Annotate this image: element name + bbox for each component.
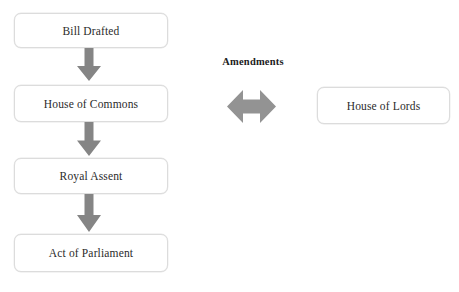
arrow-down-icon-bill-to-commons: [76, 48, 102, 81]
node-act-of-parliament[interactable]: Act of Parliament: [14, 234, 168, 272]
node-house-of-lords-label: House of Lords: [347, 100, 421, 112]
node-house-of-commons-label: House of Commons: [44, 98, 138, 110]
node-house-of-commons[interactable]: House of Commons: [14, 85, 168, 122]
cut-off-caption-strip: [0, 0, 459, 3]
arrow-down-icon-royal-assent-to-act: [76, 194, 102, 232]
node-act-of-parliament-label: Act of Parliament: [49, 247, 133, 259]
amendments-label: Amendments: [203, 56, 303, 67]
arrow-down-icon-commons-to-royal-assent: [76, 122, 102, 156]
arrow-left-right-icon-amendments: [227, 88, 276, 125]
node-house-of-lords[interactable]: House of Lords: [317, 87, 450, 124]
legislative-process-diagram: Bill Drafted House of Commons Royal Asse…: [0, 0, 459, 292]
node-bill-drafted-label: Bill Drafted: [62, 25, 119, 37]
node-royal-assent-label: Royal Assent: [60, 170, 123, 182]
node-royal-assent[interactable]: Royal Assent: [14, 158, 168, 194]
node-bill-drafted[interactable]: Bill Drafted: [14, 13, 168, 48]
